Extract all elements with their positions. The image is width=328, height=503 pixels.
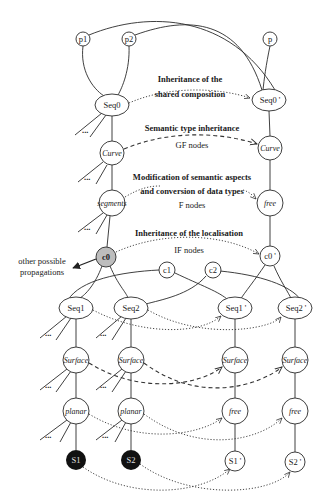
annotations: Inheritance of the shared composition Se…	[18, 74, 252, 277]
annotation-gf-nodes: GF nodes	[176, 140, 209, 150]
svg-text:c2: c2	[209, 265, 217, 275]
node-s1: S1	[66, 450, 86, 470]
annotation-f-nodes: F nodes	[179, 200, 206, 210]
svg-text:p1: p1	[79, 34, 88, 44]
node-p1: p1	[76, 32, 90, 46]
svg-text:Surface: Surface	[119, 356, 144, 365]
svg-text:planar: planar	[119, 407, 142, 416]
svg-text:Curve: Curve	[102, 149, 122, 158]
annotation-if-nodes: IF nodes	[174, 245, 204, 255]
propagation-diagram: Inheritance of the shared composition Se…	[0, 0, 328, 503]
svg-text:S2: S2	[127, 455, 136, 465]
svg-text:S1: S1	[72, 455, 81, 465]
svg-text:...: ...	[45, 380, 51, 390]
svg-text:Surface: Surface	[283, 356, 308, 365]
node-surface-1: Surface	[63, 347, 89, 373]
svg-text:...: ...	[82, 125, 88, 135]
svg-text:p: p	[268, 34, 272, 44]
svg-text:c0: c0	[102, 252, 110, 262]
svg-text:Seq1: Seq1	[68, 303, 85, 313]
svg-text:...: ...	[84, 172, 90, 182]
svg-text:Seq2: Seq2	[123, 303, 140, 313]
node-surface-2: Surface	[118, 347, 144, 373]
svg-text:Seq0 ': Seq0 '	[260, 95, 281, 105]
node-free-2: free	[282, 398, 308, 424]
svg-text:free: free	[264, 199, 277, 208]
annotation-modification-2: and conversion of data types	[140, 186, 244, 196]
svg-text:...: ...	[45, 430, 51, 440]
svg-text:free: free	[289, 407, 302, 416]
svg-text:Seq1 ': Seq1 '	[226, 303, 247, 313]
node-free-1: free	[222, 398, 248, 424]
node-c0-prime: c0 '	[260, 246, 280, 266]
svg-text:Curve: Curve	[260, 144, 280, 153]
svg-text:p2: p2	[125, 34, 134, 44]
node-curve-prime: Curve	[258, 136, 282, 160]
node-c2: c2	[205, 262, 221, 278]
svg-text:Seq0: Seq0	[104, 100, 121, 110]
node-s2: S2	[121, 450, 141, 470]
svg-text:segments: segments	[97, 199, 126, 208]
svg-text:Seq2 ': Seq2 '	[286, 303, 307, 313]
svg-text:...: ...	[102, 430, 108, 440]
svg-text:S2 ': S2 '	[289, 457, 302, 467]
svg-text:planar: planar	[64, 407, 87, 416]
node-c0: c0	[96, 247, 116, 267]
node-s1-prime: S1 '	[225, 451, 245, 471]
node-seq2-prime: Seq2 '	[278, 297, 312, 319]
node-planar-2: planar	[118, 398, 144, 424]
svg-text:...: ...	[84, 222, 90, 232]
node-p: p	[263, 32, 277, 46]
node-seq1: Seq1	[59, 297, 93, 319]
svg-text:...: ...	[45, 328, 51, 338]
annotation-shared-2: shared composition	[155, 89, 226, 99]
svg-text:...: ...	[100, 380, 106, 390]
node-curve: Curve	[100, 141, 124, 165]
node-p2: p2	[122, 32, 136, 46]
svg-text:Surface: Surface	[64, 356, 89, 365]
node-surface-1-prime: Surface	[222, 347, 248, 373]
node-c1: c1	[159, 262, 175, 278]
annotation-localisation: Inheritance of the localisation	[135, 228, 243, 238]
node-s2-prime: S2 '	[285, 452, 305, 472]
node-seq2: Seq2	[114, 297, 148, 319]
annotation-shared-1: Inheritance of the	[158, 74, 223, 84]
node-surface-2-prime: Surface	[282, 347, 308, 373]
node-planar-1: planar	[63, 398, 89, 424]
node-seq0-prime: Seq0 '	[252, 89, 286, 111]
annotation-other-2: propagations	[20, 267, 64, 277]
node-seq0: Seq0	[95, 94, 129, 116]
svg-text:...: ...	[100, 328, 106, 338]
node-segments: segments	[97, 190, 126, 216]
node-free-f: free	[257, 190, 283, 216]
node-seq1-prime: Seq1 '	[218, 297, 252, 319]
annotation-semantic-type: Semantic type inheritance	[145, 123, 240, 133]
svg-text:c1: c1	[163, 265, 171, 275]
svg-text:S1 ': S1 '	[229, 456, 242, 466]
svg-text:Surface: Surface	[223, 356, 248, 365]
annotation-modification-1: Modification of semantic aspects	[133, 172, 252, 182]
ellipsis-marks: ... ... ... ... ... ... ... ... ...	[45, 125, 108, 440]
annotation-other-1: other possible	[18, 256, 66, 266]
svg-text:free: free	[229, 407, 242, 416]
svg-text:c0 ': c0 '	[264, 251, 276, 261]
